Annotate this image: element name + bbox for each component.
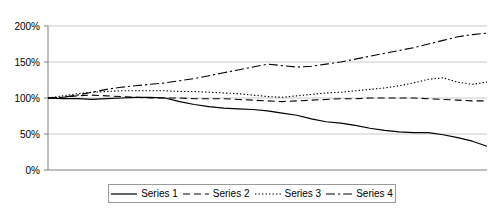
- legend-label: Series 3: [285, 189, 322, 199]
- legend-item[interactable]: Series 1: [111, 189, 178, 199]
- legend-line-icon: [111, 190, 137, 198]
- data-series-group: [48, 33, 487, 146]
- legend-line-icon: [183, 190, 209, 198]
- chart-legend: Series 1Series 2Series 3Series 4: [108, 184, 396, 203]
- legend-label: Series 2: [213, 189, 250, 199]
- series-line: [48, 97, 487, 146]
- legend-label: Series 1: [141, 189, 178, 199]
- y-axis-tick-marks: [44, 26, 48, 170]
- y-tick-label: 100%: [14, 93, 40, 104]
- legend-item[interactable]: Series 4: [326, 189, 393, 199]
- y-tick-label: 200%: [14, 21, 40, 32]
- series-line: [48, 33, 487, 98]
- y-axis-tick-labels: 0%50%100%150%200%: [14, 21, 40, 176]
- legend-line-icon: [255, 190, 281, 198]
- legend-line-icon: [326, 190, 352, 198]
- y-tick-label: 0%: [26, 165, 41, 176]
- chart-container: 0%50%100%150%200% Series 1Series 2Series…: [0, 0, 495, 210]
- legend-label: Series 4: [356, 189, 393, 199]
- plot-area: 0%50%100%150%200%: [0, 0, 495, 178]
- chart-svg: 0%50%100%150%200%: [0, 0, 495, 178]
- series-line: [48, 78, 487, 98]
- y-tick-label: 150%: [14, 57, 40, 68]
- legend-item[interactable]: Series 3: [255, 189, 322, 199]
- y-tick-label: 50%: [20, 129, 40, 140]
- legend-item[interactable]: Series 2: [183, 189, 250, 199]
